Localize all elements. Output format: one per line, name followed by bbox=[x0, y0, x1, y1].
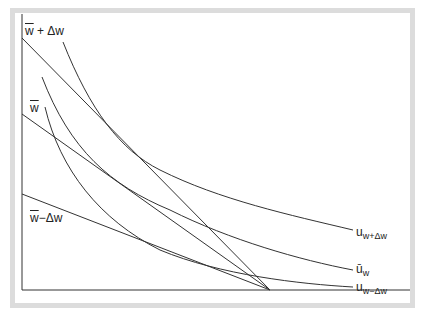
label-u-w-minus: uw−Δw bbox=[356, 281, 387, 296]
label-w-plus-dw: w + Δw bbox=[25, 25, 64, 37]
budget-line-w-plus bbox=[22, 38, 270, 290]
budget-line-w-bar bbox=[22, 114, 270, 290]
indifference-curve-u-plus bbox=[63, 42, 353, 230]
label-w-bar: w bbox=[30, 102, 39, 114]
label-u-bar-w: ūw bbox=[356, 263, 369, 278]
label-w-minus-dw: w−Δw bbox=[30, 212, 62, 224]
label-u-w-plus: uw+Δw bbox=[356, 226, 387, 241]
